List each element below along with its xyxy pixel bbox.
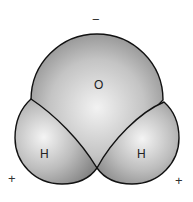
water-molecule-diagram: O H H − + +: [0, 0, 193, 202]
positive-charge-left: +: [8, 171, 16, 186]
hydrogen-left-label: H: [40, 147, 49, 161]
positive-charge-right: +: [175, 173, 183, 188]
oxygen-label: O: [94, 78, 103, 92]
negative-charge: −: [92, 12, 100, 27]
hydrogen-right-label: H: [137, 147, 146, 161]
